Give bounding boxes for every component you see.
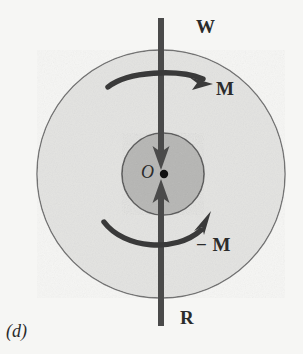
force-label-W: W bbox=[196, 17, 216, 36]
moment-label-minus-M: − M bbox=[196, 235, 231, 254]
moment-label-M: M bbox=[216, 79, 234, 98]
center-point-O-dot bbox=[160, 170, 168, 178]
figure-caption: (d) bbox=[6, 322, 27, 340]
force-label-R: R bbox=[180, 308, 194, 327]
figure-container: W M O − M R (d) bbox=[0, 0, 303, 354]
center-label-O: O bbox=[141, 163, 154, 181]
